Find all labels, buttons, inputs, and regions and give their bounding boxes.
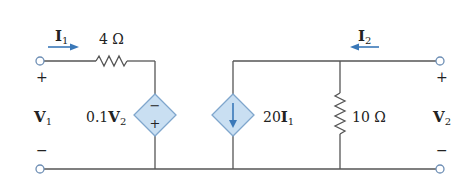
label-v2: V2 <box>432 108 451 127</box>
label-cs-value: 20I1 <box>263 108 294 127</box>
dependent-voltage-source: − + <box>134 94 176 136</box>
vs-bottom-sign: + <box>150 116 161 131</box>
label-10ohm: 10 Ω <box>352 109 386 125</box>
terminal-left-top <box>36 57 44 65</box>
label-vs-value: 0.1V2 <box>86 108 126 127</box>
vs-top-sign: − <box>150 98 161 113</box>
label-v1: V1 <box>33 108 52 127</box>
terminal-right-top <box>436 57 444 65</box>
label-i2: I2 <box>358 27 371 46</box>
label-4ohm: 4 Ω <box>99 31 124 47</box>
v2-plus: + <box>436 69 448 85</box>
resistor-10ohm <box>335 93 345 134</box>
v2-minus: − <box>436 142 448 158</box>
v1-plus: + <box>36 69 48 85</box>
terminal-left-bottom <box>36 165 44 173</box>
circuit-diagram: − + I1 4 Ω I2 + V1 − 0.1V2 20I1 10 Ω + V… <box>0 0 468 186</box>
arrow-right-icon <box>70 44 79 51</box>
dependent-current-source <box>212 94 254 136</box>
label-i1: I1 <box>55 27 68 46</box>
terminal-right-bottom <box>436 165 444 173</box>
v1-minus: − <box>36 142 48 158</box>
resistor-4ohm <box>96 56 127 66</box>
